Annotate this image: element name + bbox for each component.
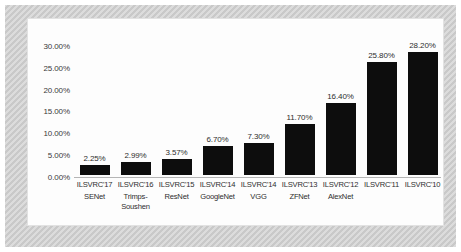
bar-value-label: 6.70% [198,135,238,144]
x-axis-model-label: ResNet [156,192,198,202]
y-axis: 0.00%5.00%10.00%15.00%20.00%25.00%30.00% [28,19,74,227]
y-axis-tick-label: 20.00% [43,85,70,94]
x-axis-category: ILSVRC'14GoogleNet [197,180,239,202]
x-axis-model-label: Trimps-Soushen [115,192,157,211]
chart-card: 0.00%5.00%10.00%15.00%20.00%25.00%30.00%… [27,18,444,226]
bar[interactable] [121,162,151,175]
bar[interactable] [285,124,315,175]
plot-area: 0.00%5.00%10.00%15.00%20.00%25.00%30.00%… [28,19,443,225]
y-axis-tick-label: 0.00% [48,173,70,182]
y-axis-tick-label: 30.00% [43,41,70,50]
x-axis-model-label: AlexNet [320,192,362,202]
x-axis-category: ILSVRC'14VGG [238,180,280,202]
x-axis-model-label: VGG [238,192,280,202]
bar[interactable] [203,146,233,175]
x-axis-year-label: ILSVRC'16 [115,180,157,190]
x-axis-year-label: ILSVRC'13 [279,180,321,190]
x-axis-year-label: ILSVRC'14 [197,180,239,190]
bar[interactable] [244,143,274,175]
x-axis-category: ILSVRC'16Trimps-Soushen [115,180,157,211]
bar[interactable] [162,159,192,175]
chart-screenshot: 0.00%5.00%10.00%15.00%20.00%25.00%30.00%… [0,0,461,252]
bar[interactable] [408,52,438,175]
bar[interactable] [326,103,356,175]
y-axis-tick-label: 5.00% [48,151,70,160]
x-axis-labels: ILSVRC'17SENetILSVRC'16Trimps-SoushenILS… [74,180,441,222]
bar-value-label: 25.80% [362,51,402,60]
x-axis-model-label: SENet [74,192,116,202]
x-axis-category: ILSVRC'12AlexNet [320,180,362,202]
bar-value-label: 11.70% [280,113,320,122]
x-axis-model-label: ZFNet [279,192,321,202]
bar-value-label: 7.30% [239,132,279,141]
x-axis-category: ILSVRC'17SENet [74,180,116,202]
bar-value-label: 3.57% [157,148,197,157]
bar-value-label: 2.25% [75,154,115,163]
x-axis-category: ILSVRC'15ResNet [156,180,198,202]
x-axis-year-label: ILSVRC'10 [402,180,444,190]
x-axis-year-label: ILSVRC'17 [74,180,116,190]
bar-value-label: 16.40% [321,92,361,101]
y-axis-tick-label: 25.00% [43,63,70,72]
x-axis-year-label: ILSVRC'14 [238,180,280,190]
x-axis-year-label: ILSVRC'15 [156,180,198,190]
x-axis-model-label: GoogleNet [197,192,239,202]
x-axis-year-label: ILSVRC'12 [320,180,362,190]
y-axis-tick-label: 15.00% [43,107,70,116]
bar[interactable] [367,62,397,175]
x-axis-year-label: ILSVRC'11 [361,180,403,190]
x-axis-category: ILSVRC'10 [402,180,444,190]
x-axis-category: ILSVRC'11 [361,180,403,190]
x-axis-category: ILSVRC'13ZFNet [279,180,321,202]
y-axis-tick-label: 10.00% [43,129,70,138]
bar-value-label: 28.20% [403,41,443,50]
bar[interactable] [80,165,110,175]
bar-value-label: 2.99% [116,151,156,160]
